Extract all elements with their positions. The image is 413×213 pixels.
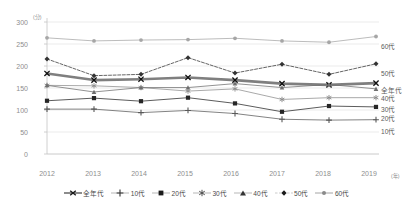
data-point bbox=[91, 106, 97, 112]
data-point bbox=[233, 36, 237, 40]
legend-item-10dai[interactable]: 10代 bbox=[111, 188, 145, 198]
legend-item-30dai[interactable]: 30代 bbox=[193, 188, 227, 198]
data-point bbox=[280, 39, 284, 43]
data-point bbox=[326, 117, 332, 123]
legend-swatch-zennendai bbox=[64, 189, 82, 197]
legend-swatch-30dai bbox=[193, 189, 211, 197]
line-chart: (分) (年) 300 250 200 150 100 50 0 2012 20… bbox=[0, 0, 413, 213]
data-point bbox=[185, 108, 191, 114]
legend-swatch-10dai bbox=[111, 189, 129, 197]
series-label-20dai: 20代 bbox=[381, 113, 395, 123]
data-point bbox=[139, 99, 143, 103]
data-point bbox=[327, 104, 331, 108]
data-point bbox=[139, 38, 143, 42]
data-point bbox=[279, 116, 285, 122]
chart-legend: 全年代 10代 20代 30代 40代 50代 60代 bbox=[0, 188, 413, 198]
legend-label-20dai: 20代 bbox=[172, 188, 186, 198]
plot-area bbox=[0, 0, 413, 213]
legend-label-10dai: 10代 bbox=[131, 188, 145, 198]
data-point bbox=[327, 72, 332, 77]
series-line-5 bbox=[47, 58, 376, 76]
data-point bbox=[186, 38, 190, 42]
data-point bbox=[327, 40, 331, 44]
data-point bbox=[233, 101, 237, 105]
series-label-40dai: 40代 bbox=[381, 93, 395, 103]
series-line-6 bbox=[47, 37, 376, 43]
data-point bbox=[92, 96, 96, 100]
legend-label-30dai: 30代 bbox=[212, 188, 226, 198]
data-point bbox=[186, 96, 190, 100]
data-point bbox=[233, 71, 238, 76]
legend-label-50dai: 50代 bbox=[294, 188, 308, 198]
data-point bbox=[373, 117, 379, 123]
legend-item-zennendai[interactable]: 全年代 bbox=[64, 188, 105, 198]
data-point bbox=[186, 55, 191, 60]
data-point bbox=[92, 39, 96, 43]
data-point bbox=[138, 110, 144, 116]
data-point bbox=[232, 111, 238, 117]
legend-item-60dai[interactable]: 60代 bbox=[315, 188, 349, 198]
series-label-50dai: 50代 bbox=[381, 68, 395, 78]
data-point bbox=[45, 56, 50, 61]
legend-swatch-50dai bbox=[275, 189, 293, 197]
data-point bbox=[374, 105, 378, 109]
data-point bbox=[374, 35, 378, 39]
legend-item-50dai[interactable]: 50代 bbox=[275, 188, 309, 198]
legend-swatch-60dai bbox=[315, 189, 333, 197]
data-point bbox=[139, 72, 144, 77]
legend-item-40dai[interactable]: 40代 bbox=[234, 188, 268, 198]
series-label-10dai: 10代 bbox=[381, 126, 395, 136]
legend-label-40dai: 40代 bbox=[253, 188, 267, 198]
data-point bbox=[45, 99, 49, 103]
series-label-60dai: 60代 bbox=[381, 41, 395, 51]
data-point bbox=[45, 36, 49, 40]
legend-label-zennendai: 全年代 bbox=[83, 188, 104, 198]
data-point bbox=[374, 61, 379, 66]
series-line-1 bbox=[47, 109, 376, 120]
data-point bbox=[44, 106, 50, 112]
legend-swatch-20dai bbox=[152, 189, 170, 197]
legend-label-60dai: 60代 bbox=[335, 188, 349, 198]
data-point bbox=[280, 110, 284, 114]
legend-swatch-40dai bbox=[234, 189, 252, 197]
legend-item-20dai[interactable]: 20代 bbox=[152, 188, 186, 198]
